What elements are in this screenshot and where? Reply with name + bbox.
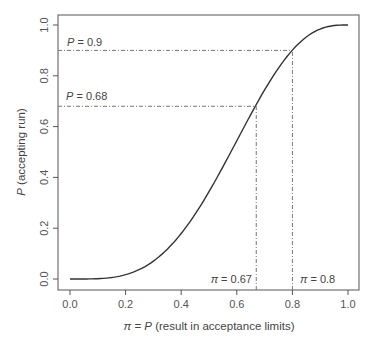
y-axis-title: P (accepting run) — [15, 108, 27, 196]
y-tick-label: 0.8 — [38, 68, 50, 83]
y-tick-label: 0.4 — [38, 170, 50, 185]
x-tick-label: 0.6 — [229, 298, 244, 310]
x-tick-label: 0.0 — [62, 298, 77, 310]
hline-label-p09: P = 0.9 — [67, 36, 102, 48]
acceptance-probability-chart: 0.00.20.40.60.81.0 0.00.20.40.60.81.0 P … — [0, 0, 380, 341]
y-tick-label: 1.0 — [38, 17, 50, 32]
x-axis-ticks: 0.00.20.40.60.81.0 — [62, 290, 355, 310]
x-tick-label: 0.4 — [174, 298, 189, 310]
vline-label-pi067: π = 0.67 — [211, 273, 252, 285]
guide-lines — [58, 50, 292, 290]
y-tick-label: 0.0 — [38, 271, 50, 286]
y-tick-label: 0.6 — [38, 119, 50, 134]
y-axis-ticks: 0.00.20.40.60.81.0 — [38, 17, 58, 286]
x-axis-title: π = P (result in acceptance limits) — [123, 320, 294, 332]
x-tick-label: 0.8 — [285, 298, 300, 310]
plot-frame — [58, 15, 359, 290]
hline-label-p068: P = 0.68 — [66, 90, 107, 102]
vline-label-pi08: π = 0.8 — [300, 273, 335, 285]
y-tick-label: 0.2 — [38, 221, 50, 236]
x-tick-label: 0.2 — [118, 298, 133, 310]
x-tick-label: 1.0 — [340, 298, 355, 310]
acceptance-curve — [70, 25, 348, 279]
